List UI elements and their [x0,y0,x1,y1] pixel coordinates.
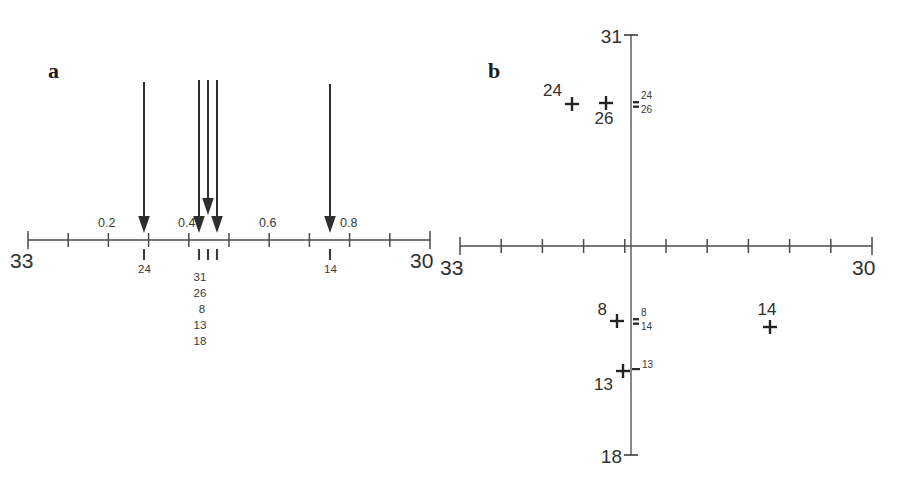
panel-a-scale-label-2: 0.6 [259,216,276,230]
panel-b-axis-mark-14 [633,323,639,325]
panel-b-point-14: 14 [758,300,777,334]
panel-a-letter: a [48,58,59,83]
panel-b-axis-annotation-14: 14 [641,321,653,332]
panel-a-cluster-label-3: 13 [194,319,207,331]
panel-a-sample-tick-label-14: 14 [324,263,337,275]
panel-b-point-label-14: 14 [758,300,777,319]
panel-a-arrow-24 [138,82,150,233]
panel-a-cluster-label-0: 31 [194,271,207,283]
panel-a-arrow-31 [193,80,205,233]
panel-a-sample-tick-label-24: 24 [138,263,151,275]
panel-b-x-left-endpoint-label: 33 [440,256,463,279]
panel-b-y-top-endpoint-label: 31 [601,26,622,47]
panel-b-axis-annotations: 24 26 8 14 13 [632,90,654,370]
panel-a-arrow-26 [202,80,214,215]
panel-b-point-8: 8 [598,300,624,328]
panel-b-point-label-26: 26 [595,109,614,128]
panel-a-arrow-14 [324,84,336,233]
panel-a-right-endpoint-label: 30 [410,249,433,272]
panel-b-point-24: 24 [543,81,579,111]
panel-a-cluster-label-2: 8 [199,303,205,315]
panel-b-axis-mark-8 [633,318,639,320]
panel-b-axis-mark-13 [632,368,640,370]
panel-b-axis-annotation-24: 24 [641,90,653,101]
panel-a-cluster-labels: 31 26 8 13 18 [194,271,207,347]
figure-root: a 33 30 0.2 0.4 [0,0,902,478]
panel-b-point-label-8: 8 [598,300,607,319]
panel-b: b 33 30 31 [440,26,875,467]
panel-b-axis-annotation-8: 8 [641,307,647,318]
panel-a-cluster-label-4: 18 [194,335,207,347]
panel-b-letter: b [488,58,500,83]
panel-a-cluster-label-1: 26 [194,287,207,299]
panel-b-point-26: 26 [595,96,614,128]
panel-b-point-13: 13 [594,364,630,394]
panel-b-axis-mark-24 [633,101,639,103]
panel-b-x-right-endpoint-label: 30 [852,256,875,279]
panel-b-axis-mark-26 [633,106,639,108]
panel-a-scale-label-1: 0.4 [178,216,195,230]
panel-b-points: 24 26 8 13 [543,81,777,394]
panel-b-y-bottom-endpoint-label: 18 [601,446,622,467]
panel-a-scale-label-3: 0.8 [340,216,357,230]
figure-canvas: a 33 30 0.2 0.4 [0,0,902,478]
panel-b-point-label-24: 24 [543,81,562,100]
panel-b-axis-annotation-26: 26 [641,104,653,115]
panel-b-axis-annotation-13: 13 [642,359,654,370]
panel-a-arrow-8 [211,80,223,233]
panel-a-scale-label-0: 0.2 [98,216,115,230]
panel-a-left-endpoint-label: 33 [10,249,33,272]
panel-a-arrows [138,80,336,233]
panel-a: a 33 30 0.2 0.4 [10,58,433,347]
panel-b-point-label-13: 13 [594,375,613,394]
panel-a-sample-ticks [144,249,330,260]
